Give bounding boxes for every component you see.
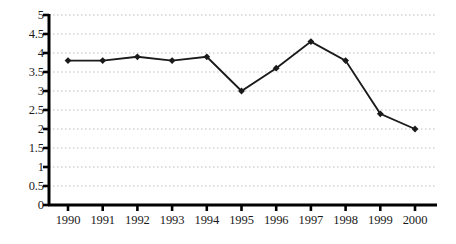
x-axis-tick-label: 2000 — [385, 214, 445, 227]
line-chart: 5 4.5 4 3.5 3 2.5 2 1.5 1 0.5 0 1990 199… — [0, 0, 456, 244]
x-axis-tick-labels: 1990 1991 1992 1993 1994 1995 1996 1997 … — [0, 0, 456, 244]
